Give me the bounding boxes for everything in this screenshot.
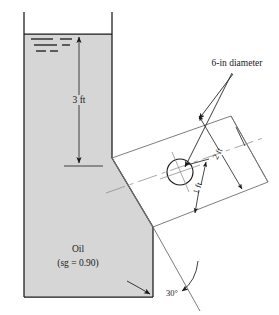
pipe-diameter-leader-to-edge — [199, 74, 233, 119]
dim-1ft-arrow-upper — [201, 162, 206, 185]
dim-1ft-label: 1 ft — [191, 180, 205, 195]
dim-2ft-extension-far — [236, 127, 245, 146]
fluid-property-label: (sg = 0.90) — [57, 258, 99, 269]
plate-far-edge — [231, 116, 268, 182]
dim-2ft-group: 2 ft — [199, 116, 245, 189]
curved-angle-arrow-icon — [182, 261, 198, 291]
fluid-name-label: Oil — [72, 244, 85, 254]
angle-label: 30° — [166, 288, 178, 298]
pipe-diameter-label: 6-in diameter — [212, 58, 264, 68]
depth-label: 3 ft — [73, 95, 86, 105]
gate-centerline-transverse — [172, 152, 189, 192]
angle-reference-line — [153, 227, 200, 311]
diagram-canvas: 3 ft Oil (sg = 0.90) — [0, 0, 279, 315]
pipe-diameter-leader-to-gate — [185, 73, 232, 167]
dim-2ft-arrow-lower — [222, 155, 242, 189]
engineering-diagram-figure: 3 ft Oil (sg = 0.90) — [0, 0, 279, 315]
dim-1ft-group: 1 ft — [187, 159, 209, 213]
dim-2ft-label: 2 ft — [210, 146, 225, 161]
